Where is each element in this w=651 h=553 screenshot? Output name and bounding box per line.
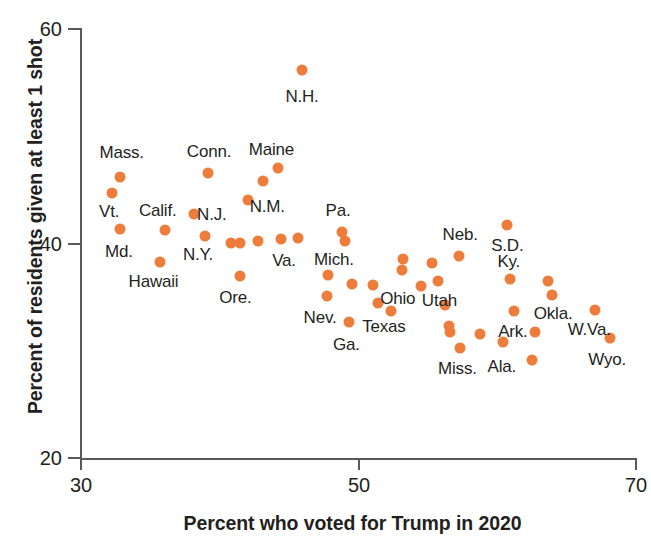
data-point — [340, 236, 351, 247]
point-label: Neb. — [443, 225, 478, 245]
data-point — [234, 270, 245, 281]
data-point — [273, 163, 284, 174]
data-point — [432, 276, 443, 287]
data-point — [344, 316, 355, 327]
data-point — [346, 279, 357, 290]
point-label: Texas — [362, 317, 405, 337]
point-label: N.H. — [285, 87, 318, 107]
point-label: N.J. — [197, 205, 226, 225]
point-label: Vt. — [99, 202, 119, 222]
data-point — [276, 234, 287, 245]
data-point — [505, 273, 516, 284]
data-point — [202, 167, 213, 178]
data-point — [292, 233, 303, 244]
point-label: Ohio — [380, 289, 415, 309]
data-point — [115, 172, 126, 183]
data-point — [589, 305, 600, 316]
point-label: Ala. — [488, 357, 517, 377]
point-label: Pa. — [326, 201, 351, 221]
data-point — [115, 223, 126, 234]
point-label: Mich. — [314, 250, 354, 270]
data-point — [509, 306, 520, 317]
data-point — [445, 326, 456, 337]
point-label: Md. — [105, 242, 133, 262]
data-point — [323, 269, 334, 280]
data-point — [155, 256, 166, 267]
data-point — [252, 236, 263, 247]
data-point — [527, 355, 538, 366]
data-point — [455, 342, 466, 353]
point-label: Hawaii — [129, 272, 179, 292]
point-label: Mass. — [99, 143, 143, 163]
data-point — [396, 265, 407, 276]
point-label: Ark. — [498, 322, 527, 342]
data-point — [530, 326, 541, 337]
point-label: W.Va. — [568, 320, 611, 340]
data-point — [502, 220, 513, 231]
data-point — [453, 251, 464, 262]
point-label: Okla. — [534, 304, 573, 324]
data-point — [297, 64, 308, 75]
point-label: Wyo. — [588, 350, 626, 370]
data-point — [367, 280, 378, 291]
data-point — [542, 276, 553, 287]
data-point — [321, 291, 332, 302]
point-label: N.M. — [250, 197, 285, 217]
point-label: Calif. — [139, 201, 177, 221]
point-label: Conn. — [187, 142, 231, 162]
data-point — [199, 231, 210, 242]
point-label: Ore. — [219, 288, 251, 308]
point-label: Miss. — [438, 359, 477, 379]
data-point — [234, 237, 245, 248]
point-label: Utah — [422, 291, 457, 311]
point-label: Ky. — [497, 252, 520, 272]
point-label: Ga. — [333, 335, 360, 355]
data-point — [546, 290, 557, 301]
point-label: Nev. — [304, 308, 337, 328]
point-label: Maine — [249, 140, 294, 160]
data-point — [416, 281, 427, 292]
point-label: Va. — [272, 251, 296, 271]
point-label: N.Y. — [183, 245, 213, 265]
data-point — [427, 257, 438, 268]
data-point — [106, 188, 117, 199]
data-point — [398, 253, 409, 264]
data-point — [258, 176, 269, 187]
data-point — [159, 224, 170, 235]
data-point — [474, 328, 485, 339]
